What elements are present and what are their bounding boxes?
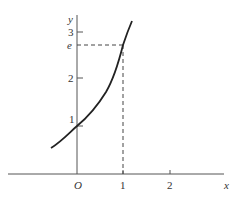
- y-tick-label-2: 2: [68, 72, 74, 84]
- exp-curve: [51, 21, 132, 148]
- y-axis-label: y: [67, 13, 73, 25]
- y-tick-label-1: 1: [69, 113, 75, 125]
- y-tick-label-e: e: [67, 39, 72, 51]
- y-tick-label-3: 3: [68, 26, 74, 38]
- x-axis-label: x: [223, 179, 229, 191]
- exponential-chart: y 3 e 2 1 O 1 2 x: [0, 0, 239, 199]
- x-tick-label-1: 1: [120, 179, 126, 191]
- x-tick-label-2: 2: [167, 179, 173, 191]
- origin-label: O: [74, 179, 82, 191]
